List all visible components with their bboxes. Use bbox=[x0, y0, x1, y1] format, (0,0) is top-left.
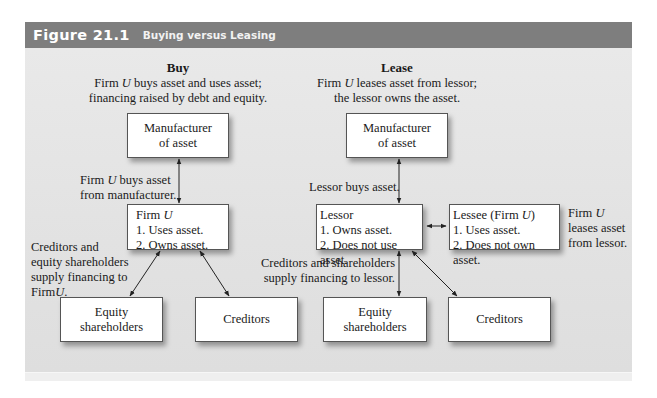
lessee-title: Lessee (Firm U) bbox=[453, 208, 559, 223]
figure-title: Buying versus Leasing bbox=[143, 29, 276, 41]
lease-description-line1: Firm U leases asset from lessor; bbox=[297, 76, 497, 91]
box-label: of asset bbox=[159, 136, 197, 151]
financing-label-line: equity shareholders bbox=[31, 255, 129, 270]
buy-financing-label: Creditors and equity shareholders supply… bbox=[31, 240, 129, 300]
panel-footer-strip bbox=[25, 372, 632, 381]
box-label: Equity bbox=[358, 305, 391, 320]
lessee-item1: 1. Uses asset. bbox=[453, 223, 559, 238]
financing-label-line: supply financing to bbox=[31, 270, 129, 285]
lease-purchase-label: Lessor buys asset. bbox=[309, 180, 400, 195]
buy-purchase-label-line2: from manufacturer. bbox=[80, 188, 176, 203]
lessee-box: Lessee (Firm U) 1. Uses asset. 2. Does n… bbox=[449, 204, 560, 250]
lessor-item1: 1. Owns asset. bbox=[320, 223, 422, 238]
lease-lease-label: Firm U leases asset from lessor. bbox=[568, 206, 627, 251]
box-label: of asset bbox=[378, 136, 416, 151]
firm-u-item1: 1. Uses asset. bbox=[136, 223, 228, 238]
box-label: Creditors bbox=[476, 312, 523, 327]
lease-equity-shareholders-box: Equity shareholders bbox=[323, 297, 427, 342]
firm-u-title: Firm U bbox=[136, 208, 228, 223]
box-label: Manufacturer bbox=[363, 121, 431, 136]
financing-label-line2: supply financing to lessor. bbox=[238, 271, 395, 286]
buy-heading: Buy bbox=[128, 60, 228, 75]
firm-u-item2: 2. Owns asset. bbox=[136, 238, 228, 253]
lease-label-line2: leases asset bbox=[568, 221, 627, 236]
buy-purchase-label: Firm U buys asset from manufacturer. bbox=[80, 173, 176, 203]
lease-financing-label: Creditors and shareholders supply financ… bbox=[238, 256, 395, 286]
figure-number: Figure 21.1 bbox=[33, 27, 130, 43]
buy-purchase-label-line1: Firm U buys asset bbox=[80, 173, 176, 188]
lessor-title: Lessor bbox=[320, 208, 422, 223]
financing-label-line: Creditors and bbox=[31, 240, 129, 255]
buy-creditors-box: Creditors bbox=[195, 297, 298, 342]
box-label: shareholders bbox=[80, 320, 143, 335]
lessee-item2: 2. Does not own asset. bbox=[453, 238, 559, 268]
lease-label-line3: from lessor. bbox=[568, 236, 627, 251]
buy-description-line1: Firm U buys asset and uses asset; bbox=[78, 76, 278, 91]
buy-description-line2: financing raised by debt and equity. bbox=[78, 91, 278, 106]
box-label: Equity bbox=[95, 305, 128, 320]
lease-description: Firm U leases asset from lessor; the les… bbox=[297, 76, 497, 106]
box-label: Manufacturer bbox=[144, 121, 212, 136]
buy-firm-u-box: Firm U 1. Uses asset. 2. Owns asset. bbox=[127, 204, 229, 250]
figure-header: Figure 21.1 Buying versus Leasing bbox=[25, 22, 632, 48]
financing-label-line1: Creditors and shareholders bbox=[238, 256, 395, 271]
box-label: Creditors bbox=[223, 312, 270, 327]
lease-description-line2: the lessor owns the asset. bbox=[297, 91, 497, 106]
lease-creditors-box: Creditors bbox=[448, 297, 551, 342]
buy-description: Firm U buys asset and uses asset; financ… bbox=[78, 76, 278, 106]
box-label: shareholders bbox=[343, 320, 406, 335]
buy-equity-shareholders-box: Equity shareholders bbox=[60, 297, 163, 342]
lease-heading: Lease bbox=[347, 60, 447, 75]
buy-manufacturer-box: Manufacturer of asset bbox=[127, 113, 229, 158]
lessor-box: Lessor 1. Owns asset. 2. Does not use as… bbox=[316, 204, 423, 250]
lease-manufacturer-box: Manufacturer of asset bbox=[346, 113, 448, 158]
lease-label-line1: Firm U bbox=[568, 206, 627, 221]
